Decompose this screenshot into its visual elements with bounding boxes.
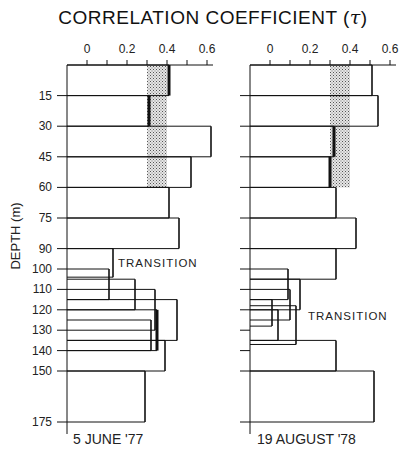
x-tick-label: 0 (267, 42, 274, 56)
svg-text:DEPTH (m): DEPTH (m) (8, 202, 23, 269)
bar-segment (250, 249, 336, 280)
x-tick-label: 0.4 (342, 42, 359, 56)
bar-segment (250, 289, 290, 320)
x-tick-label: 0.6 (199, 42, 216, 56)
x-tick-label: 0 (84, 42, 91, 56)
bar-segment (67, 249, 113, 278)
bar-segment (250, 306, 296, 345)
x-tick-label: 0.2 (119, 42, 136, 56)
depth-tick-15: 15 (39, 89, 53, 103)
depth-tick-110: 110 (33, 282, 52, 296)
bar-segment (250, 300, 272, 327)
bar-segment (250, 371, 374, 422)
bar-segment (67, 269, 109, 300)
depth-tick-75: 75 (39, 211, 53, 225)
bar-segment (250, 269, 288, 300)
x-tick-label: 0.4 (159, 42, 176, 56)
y-axis-label: DEPTH (m) (8, 202, 23, 269)
bar-segment (67, 96, 149, 127)
depth-tick-150: 150 (32, 364, 52, 378)
bar-segment (250, 340, 336, 371)
bar-segment (250, 65, 372, 96)
depth-tick-140: 140 (32, 344, 52, 358)
bar-segment (250, 218, 356, 249)
panel-caption: 5 JUNE '77 (73, 431, 144, 447)
depth-tick-120: 120 (32, 303, 52, 317)
bar-segment (67, 320, 151, 351)
transition-annotation: TRANSITION (118, 257, 198, 269)
depth-tick-100: 100 (32, 262, 52, 276)
depth-tick-90: 90 (39, 242, 53, 256)
transition-annotation: TRANSITION (308, 310, 388, 322)
bar-segment (250, 157, 330, 188)
bar-segment (250, 187, 336, 218)
bar-segment (250, 310, 278, 341)
bar-segment (67, 126, 211, 157)
panel-caption: 19 AUGUST '78 (257, 431, 356, 447)
correlation-depth-chart: DEPTH (m) 153045607590100110120130140150… (0, 0, 406, 454)
x-tick-label: 0.6 (382, 42, 399, 56)
depth-tick-45: 45 (39, 150, 53, 164)
depth-tick-175: 175 (32, 415, 52, 429)
panel-19-august-78: 00.20.40.6TRANSITION19 AUGUST '78 (240, 42, 399, 447)
bar-segment (67, 218, 179, 249)
bar-segment (67, 279, 135, 310)
depth-tick-60: 60 (39, 180, 53, 194)
x-tick-label: 0.2 (302, 42, 319, 56)
bar-segment (67, 371, 145, 422)
bar-segment (250, 96, 378, 127)
depth-tick-labels: 153045607590100110120130140150175 (32, 89, 52, 429)
bar-segment (250, 279, 300, 310)
bar-segment (250, 126, 334, 157)
panel-5-june-77: 00.20.40.6TRANSITION5 JUNE '77 (57, 42, 216, 447)
depth-tick-30: 30 (39, 119, 53, 133)
bar-segment (67, 187, 169, 218)
bar-segment (67, 157, 191, 188)
depth-tick-130: 130 (32, 323, 52, 337)
